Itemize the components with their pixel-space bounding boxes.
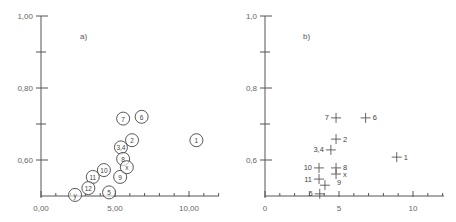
- data-point: 1: [392, 152, 408, 162]
- data-point: 2: [126, 134, 139, 147]
- point-label: 6: [373, 113, 377, 122]
- point-label: 12: [85, 185, 93, 192]
- point-label: x: [343, 170, 347, 179]
- point-label: 7: [121, 116, 125, 123]
- point-label: 10: [100, 167, 108, 174]
- figure: a) 0,005,0010,000,600,801,00123,45678910…: [0, 0, 456, 222]
- y-tick-label: 1,00: [17, 12, 33, 21]
- point-label: 10: [304, 163, 312, 172]
- point-label: 6: [140, 114, 144, 121]
- point-label: 11: [89, 174, 96, 181]
- x-tick-label: 5,00: [107, 204, 123, 213]
- x-tick-label: 0: [263, 204, 268, 213]
- point-label: 3,4: [116, 144, 125, 151]
- point-label: 7: [325, 113, 329, 122]
- data-point: 7: [117, 112, 130, 125]
- data-point: 12: [82, 182, 95, 195]
- y-tick-label: 0,8: [246, 84, 258, 93]
- x-tick-label: 0,00: [33, 204, 49, 213]
- x-tick-label: 10: [409, 204, 418, 213]
- data-point: 3,4: [313, 145, 335, 155]
- y-tick-label: 0,60: [17, 156, 33, 165]
- panel-b-label: b): [303, 32, 310, 41]
- x-tick-label: 10,00: [179, 204, 200, 213]
- data-point: 6: [361, 113, 377, 123]
- data-point: 10: [304, 163, 324, 173]
- data-point: 5: [309, 189, 325, 199]
- data-point: 5: [103, 186, 116, 199]
- point-label: 1: [404, 153, 408, 162]
- data-point: y: [69, 188, 82, 201]
- point-label: 2: [130, 137, 134, 144]
- point-label: 5: [309, 189, 313, 198]
- point-label: 2: [343, 135, 347, 144]
- data-point: 1: [190, 134, 203, 147]
- x-tick-label: 5: [337, 204, 342, 213]
- data-point: 3,4: [114, 141, 127, 154]
- scatter-panel-b: b) 05100,60,81,0123,4567891011x: [246, 12, 444, 213]
- y-tick-label: 1,0: [246, 12, 258, 21]
- point-label: 1: [195, 137, 199, 144]
- data-point: 9: [320, 178, 341, 191]
- y-tick-label: 0,6: [246, 156, 258, 165]
- data-point: 2: [331, 134, 347, 144]
- data-point: 11: [304, 174, 324, 184]
- point-label: 3,4: [313, 145, 323, 154]
- point-label: 9: [118, 174, 122, 181]
- y-tick-label: 0,80: [17, 84, 33, 93]
- scatter-panel-a: a) 0,005,0010,000,600,801,00123,45678910…: [17, 12, 219, 213]
- point-label: 5: [107, 189, 111, 196]
- point-label: 9: [337, 178, 341, 187]
- data-point: x: [120, 161, 133, 174]
- point-label: 11: [304, 175, 312, 184]
- data-point: 7: [325, 113, 341, 123]
- panel-a-label: a): [80, 32, 87, 41]
- data-point: 6: [135, 110, 148, 123]
